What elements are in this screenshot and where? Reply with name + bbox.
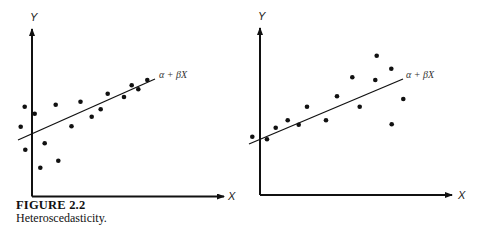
data-point <box>98 107 103 112</box>
y-axis-label: Y <box>258 10 266 22</box>
data-point <box>401 97 406 102</box>
data-point <box>56 158 61 163</box>
data-point <box>350 75 355 80</box>
data-point <box>335 94 340 99</box>
data-point <box>145 78 150 83</box>
data-point <box>273 125 278 130</box>
data-point <box>53 102 58 107</box>
data-point <box>105 91 110 96</box>
data-point <box>129 83 134 88</box>
data-point <box>78 99 83 104</box>
data-point <box>38 165 43 170</box>
data-point <box>23 147 28 152</box>
regression-line-label: α + βX <box>406 69 435 80</box>
data-point <box>32 111 37 116</box>
data-point <box>389 66 394 71</box>
figure-caption: FIGURE 2.2 Heteroscedasticity. <box>16 199 107 225</box>
figure-title: Heteroscedasticity. <box>16 212 107 225</box>
x-axis-label: X <box>227 190 236 202</box>
data-point <box>374 53 379 58</box>
x-axis-label: X <box>457 189 466 201</box>
data-point <box>122 95 127 100</box>
data-point <box>285 118 290 123</box>
right-scatter-plot: YXα + βX <box>249 10 466 201</box>
data-point <box>18 124 23 129</box>
data-point <box>42 141 47 146</box>
data-point <box>136 87 141 92</box>
data-point <box>305 104 310 109</box>
y-axis-label: Y <box>30 11 38 23</box>
data-point <box>389 122 394 127</box>
data-point <box>22 104 27 109</box>
data-point <box>324 118 329 123</box>
data-point <box>373 78 378 83</box>
data-point <box>250 134 255 139</box>
regression-line <box>18 79 155 140</box>
data-point <box>296 122 301 127</box>
regression-line <box>249 79 403 144</box>
data-point <box>357 104 362 109</box>
data-point <box>89 114 94 119</box>
left-scatter-plot: YXα + βX <box>18 11 236 202</box>
data-point <box>69 124 74 129</box>
data-point <box>265 137 270 142</box>
regression-line-label: α + βX <box>159 69 188 80</box>
